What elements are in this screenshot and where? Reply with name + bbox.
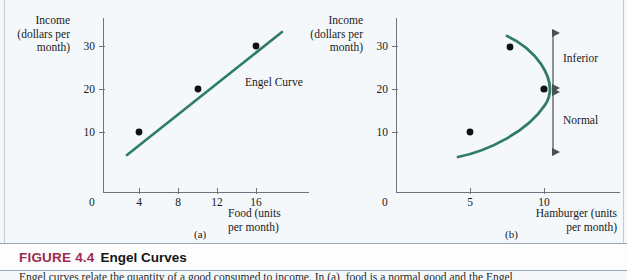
figure-caption-number: FIGURE 4.4 xyxy=(19,250,95,265)
figure-page: 30 20 10 4 8 12 16 0 Income (dollars per… xyxy=(0,0,627,280)
figure-caption-bar: FIGURE 4.4Engel Curves xyxy=(0,243,627,271)
data-point-a-2 xyxy=(195,86,202,93)
figure-caption: FIGURE 4.4Engel Curves xyxy=(0,248,187,266)
data-point-b-1 xyxy=(467,129,474,136)
figure-graphics: 30 20 10 4 8 12 16 0 Income (dollars per… xyxy=(0,0,627,240)
data-point-b-2 xyxy=(540,85,547,92)
engel-curve-line-b xyxy=(458,36,550,157)
data-point-b-3 xyxy=(507,44,514,51)
figure-caption-title: Engel Curves xyxy=(101,250,187,265)
panel-a-curve-svg xyxy=(0,0,313,240)
panel-a: 30 20 10 4 8 12 16 0 Income (dollars per… xyxy=(0,0,313,240)
data-point-a-3 xyxy=(253,43,260,50)
figure-body-text: Engel curves relate the quantity of a go… xyxy=(19,271,611,280)
inferior-range-label: Inferior xyxy=(563,52,598,64)
panel-b: 30 20 10 5 10 0 Income (dollars per mont… xyxy=(313,0,627,240)
panel-a-curve-label: Engel Curve xyxy=(245,76,303,88)
engel-curve-line-a xyxy=(127,32,282,155)
data-point-a-1 xyxy=(136,129,143,136)
normal-range-label: Normal xyxy=(563,114,598,126)
panel-b-tag: (b) xyxy=(505,228,518,240)
panel-a-tag: (a) xyxy=(194,228,206,240)
